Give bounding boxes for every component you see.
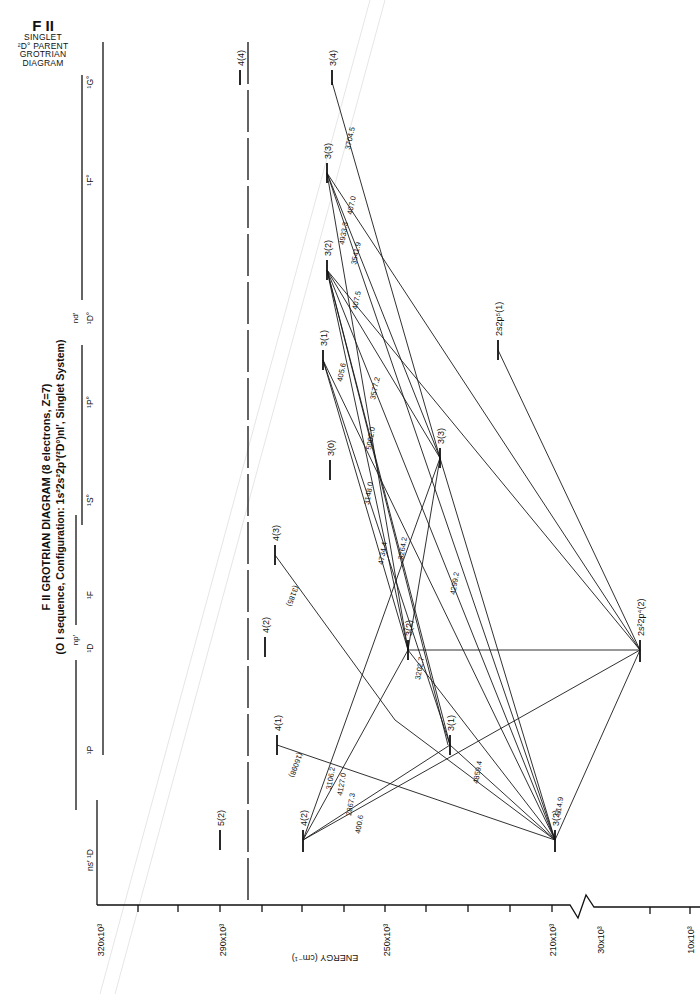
- energy-axis: [97, 895, 700, 918]
- wavelength-label: (3185): [285, 584, 301, 608]
- level-label: 4(4): [236, 50, 246, 66]
- column-label-1G: ¹G°: [85, 76, 95, 89]
- level-label: 5(2): [216, 810, 226, 826]
- level-label: 4(1): [273, 715, 283, 731]
- axis-tick-labels: 320x10³ 290x10³ 250x10³ 210x10³ 30x10³ 1…: [96, 924, 696, 957]
- diagram-subtitle: (O I sequence, Configuration: 1s²2s²2p³(…: [54, 340, 66, 655]
- level-label: 2s2p⁵(1): [494, 302, 504, 336]
- level-label: 4(3): [271, 525, 281, 541]
- level-labels: 5(2) 4(2) 3(2) 4(1) 3(1) 4(2) 3(2) 4(3) …: [216, 50, 646, 826]
- wavelength-label: 407.5: [350, 290, 363, 310]
- diagram-title: F II GROTRIAN DIAGRAM (8 electrons, Z=7): [40, 383, 52, 610]
- wavelength-label: 407.0: [345, 195, 358, 215]
- level-label: 3(3): [323, 143, 333, 159]
- axis-label-energy: ENERGY (cm⁻¹): [292, 953, 358, 963]
- wavelength-label: 3264.2: [396, 536, 409, 560]
- wavelength-label: 3577.2: [368, 376, 382, 400]
- wavelength-label: 2867.3: [344, 792, 357, 816]
- wavelength-label: 5002.0: [364, 426, 377, 450]
- column-label-1D: ¹D°: [85, 312, 95, 324]
- wavelength-label: (16098): [287, 751, 304, 779]
- tick-label-290: 290x10³: [218, 924, 228, 957]
- column-label-1S: ¹S°: [85, 494, 95, 506]
- level-label: 3(2): [323, 240, 333, 256]
- column-label-1F: ¹F°: [85, 174, 95, 185]
- wavelength-label: 4933.3: [337, 221, 350, 245]
- column-label-1P: ¹P°: [85, 396, 95, 408]
- tick-label-10: 10x10³: [686, 926, 696, 954]
- wavelength-label: 4127.0: [335, 772, 348, 796]
- wavelength-label: 4299.2: [448, 571, 461, 595]
- tick-label-210: 210x10³: [548, 924, 558, 957]
- tick-label-320: 320x10³: [96, 924, 106, 957]
- wavelength-label: 4734.4: [376, 541, 389, 565]
- wavelength-labels: 3704.5 407.0 4933.3 3541.9 407.5 405.6 3…: [285, 126, 566, 834]
- tick-label-250: 250x10³: [382, 924, 392, 957]
- wavelength-label: 400.6: [353, 814, 365, 834]
- level-label: 3(3): [436, 428, 446, 444]
- column-label-np-1F: ¹F: [85, 591, 95, 599]
- wavelength-label: 4859.4: [471, 760, 484, 784]
- level-label: 3(1): [319, 330, 329, 346]
- column-label-np-1D: ¹D: [85, 644, 95, 653]
- level-label: 3(0): [326, 440, 336, 456]
- level-label: 2s²2p⁴(2): [636, 599, 646, 636]
- column-label-np-1P: ¹P: [85, 745, 95, 754]
- wavelength-label: 3704.5: [343, 126, 357, 150]
- energy-levels: [220, 70, 640, 852]
- group-label-nd: nd′: [71, 312, 80, 323]
- level-label: 4(2): [261, 617, 271, 633]
- level-label: 4(2): [299, 810, 309, 826]
- tick-label-30: 30x10³: [596, 926, 606, 954]
- column-label-ns-1D: ns′ ¹D: [85, 849, 95, 871]
- level-label: 3(4): [328, 50, 338, 66]
- group-label-np: np′: [71, 634, 80, 645]
- wavelength-label: 514.9: [553, 796, 565, 816]
- wavelength-label: 3106.2: [324, 766, 337, 790]
- wavelength-label: 405.6: [335, 362, 348, 382]
- level-label: 3(1): [446, 715, 456, 731]
- grotrian-diagram: F II GROTRIAN DIAGRAM (8 electrons, Z=7)…: [0, 0, 700, 994]
- level-label: 3(2): [404, 620, 414, 636]
